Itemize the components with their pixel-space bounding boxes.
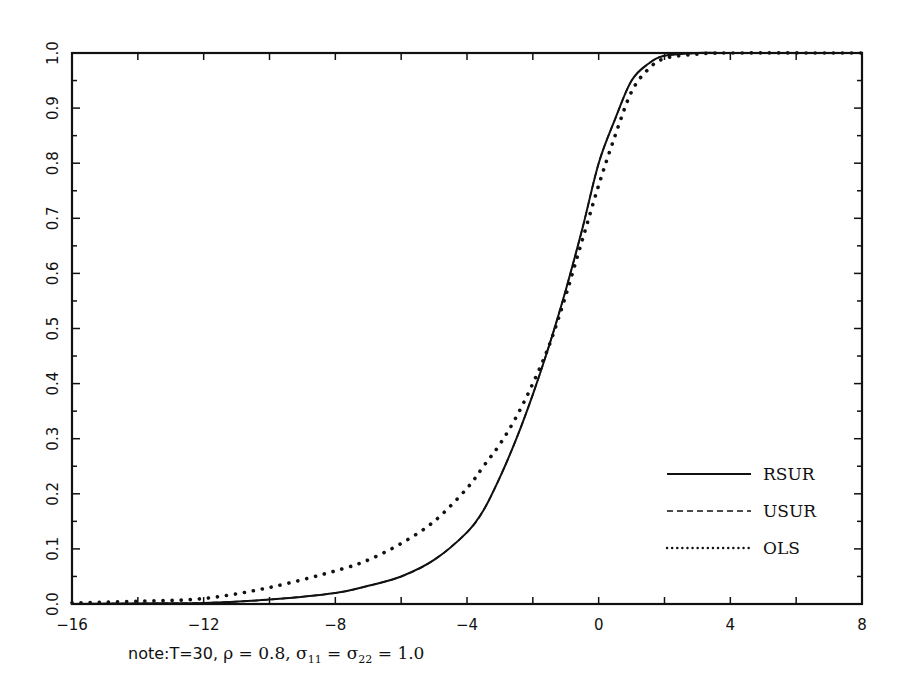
x-axis-ticks: −16−12−8−4048 [56, 53, 867, 634]
y-axis-ticks: 0.00.10.20.30.40.50.60.70.80.91.0 [44, 41, 862, 616]
x-tick-label: 4 [726, 616, 736, 634]
note-rho: ρ = 0.8, [223, 643, 296, 663]
plot-border [72, 53, 862, 604]
note-sigma22: σ [347, 643, 359, 663]
y-tick-label: 0.6 [44, 261, 62, 285]
y-tick-label: 0.3 [44, 427, 62, 451]
y-tick-label: 1.0 [44, 41, 62, 65]
curve-rsur [72, 53, 862, 604]
note-sigma11: σ [296, 643, 308, 663]
x-tick-label: −12 [188, 616, 220, 634]
chart-note: note:T=30, ρ = 0.8, σ11 = σ22 = 1.0 [128, 643, 424, 666]
x-tick-label: 0 [594, 616, 604, 634]
legend-label-usur: USUR [763, 501, 817, 521]
y-tick-label: 0.4 [44, 372, 62, 396]
y-tick-label: 0.7 [44, 206, 62, 230]
y-tick-label: 0.9 [44, 96, 62, 120]
curve-usur [72, 53, 862, 604]
y-tick-label: 0.8 [44, 151, 62, 175]
y-tick-label: 0.0 [44, 592, 62, 616]
x-tick-label: −4 [456, 616, 478, 634]
x-tick-label: −16 [56, 616, 88, 634]
plot-frame [72, 53, 862, 604]
y-tick-label: 0.2 [44, 482, 62, 506]
y-tick-label: 0.5 [44, 317, 62, 341]
plot-curves [72, 53, 862, 604]
note-prefix: note:T=30, [128, 644, 223, 663]
legend-label-ols: OLS [763, 538, 800, 558]
note-eq: = [322, 643, 347, 663]
x-tick-label: 8 [857, 616, 867, 634]
note-sub22: 22 [358, 653, 372, 666]
note-value: = 1.0 [372, 643, 424, 663]
legend: RSURUSUROLS [667, 464, 817, 558]
y-tick-label: 0.1 [44, 537, 62, 561]
cdf-chart: −16−12−8−4048 0.00.10.20.30.40.50.60.70.… [0, 0, 912, 699]
note-sub11: 11 [308, 653, 322, 666]
curve-ols [72, 53, 862, 603]
legend-label-rsur: RSUR [763, 464, 816, 484]
x-tick-label: −8 [324, 616, 346, 634]
